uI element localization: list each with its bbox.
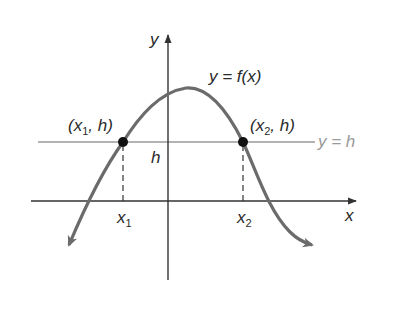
x2-sub: 2 xyxy=(246,217,252,229)
y-axis-label: y xyxy=(150,31,159,48)
x-axis-label: x xyxy=(345,207,354,224)
diagram-canvas: y x y = f(x) (x1, h) (x2, h) h y = h x1 … xyxy=(0,0,413,310)
x2-tick-label: x2 xyxy=(237,209,252,229)
diagram-graphics xyxy=(0,0,413,310)
point2-label: (x2, h) xyxy=(250,117,295,137)
x1-base: x xyxy=(117,208,126,227)
x2-base: x xyxy=(237,208,246,227)
point1-label-pre: (x xyxy=(68,116,82,135)
x1-sub: 1 xyxy=(126,217,132,229)
point-x1-h xyxy=(118,137,128,147)
function-curve xyxy=(69,88,312,245)
line-y-equals-h-label: y = h xyxy=(318,133,355,150)
function-label: y = f(x) xyxy=(209,68,261,85)
point1-label-post: , h) xyxy=(88,116,113,135)
point-x2-h xyxy=(238,137,248,147)
point2-label-post: , h) xyxy=(270,116,295,135)
h-tick-label: h xyxy=(151,149,160,166)
point1-label: (x1, h) xyxy=(68,117,113,137)
point2-label-pre: (x xyxy=(250,116,264,135)
x1-tick-label: x1 xyxy=(117,209,132,229)
